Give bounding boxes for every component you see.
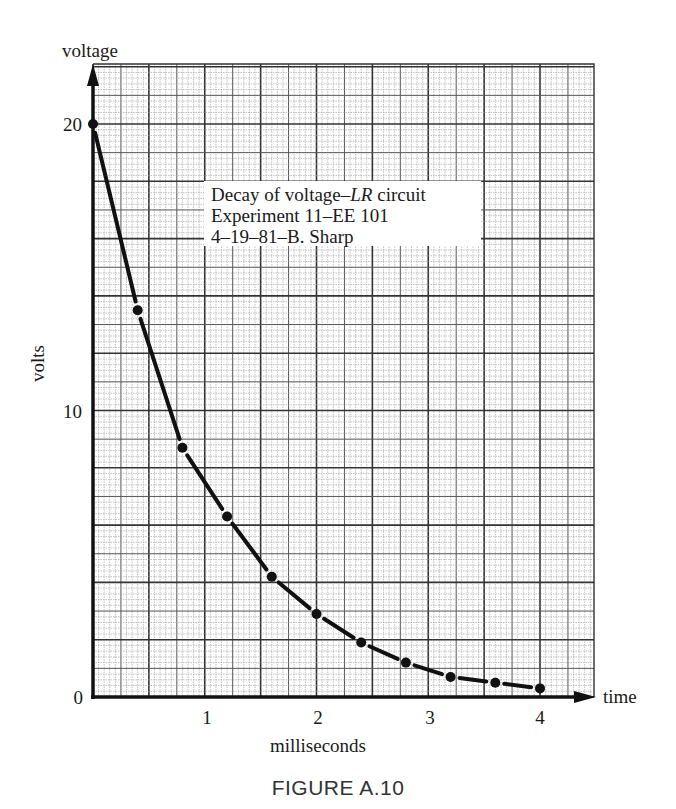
- data-point: [446, 672, 456, 682]
- x-tick-label-4: 4: [535, 707, 545, 728]
- figure-caption: FIGURE A.10: [0, 776, 676, 800]
- data-point: [88, 119, 98, 129]
- chart: voltage volts 20 10 0 1 2 3 4 millisecon…: [0, 0, 676, 809]
- curve-segment: [504, 684, 531, 687]
- y-tick-label-0: 0: [74, 687, 84, 708]
- data-point: [312, 609, 322, 619]
- data-point: [222, 512, 232, 522]
- annotation-italic-text: LR: [350, 184, 372, 205]
- annotation-line-3: 4–19–81–B. Sharp: [211, 226, 477, 247]
- data-point: [401, 658, 411, 668]
- annotation-text: circuit: [372, 184, 425, 205]
- x-tick-label-1: 1: [202, 707, 212, 728]
- annotation-line-2: Experiment 11–EE 101: [211, 205, 477, 226]
- curve-segment: [95, 133, 135, 302]
- x-tick-label-3: 3: [425, 707, 435, 728]
- y-axis-title: volts: [27, 345, 48, 382]
- annotation-text: Decay of voltage–: [211, 184, 350, 205]
- y-tick-label-10: 10: [63, 401, 82, 422]
- y-tick-label-20: 20: [63, 114, 82, 135]
- x-tick-label-2: 2: [313, 707, 323, 728]
- annotation-line-1: Decay of voltage–LR circuit: [211, 184, 477, 205]
- graph-paper-grid: [93, 64, 594, 697]
- x-axis-title: milliseconds: [270, 735, 366, 756]
- data-point: [267, 572, 277, 582]
- data-point: [490, 678, 500, 688]
- data-point: [535, 683, 545, 693]
- data-point: [177, 443, 187, 453]
- annotation-box: Decay of voltage–LR circuit Experiment 1…: [204, 181, 481, 246]
- y-axis-top-label: voltage: [62, 40, 118, 61]
- curve-segment: [460, 678, 487, 681]
- data-point: [133, 305, 143, 315]
- data-point: [356, 638, 366, 648]
- x-axis-end-label: time: [603, 686, 637, 707]
